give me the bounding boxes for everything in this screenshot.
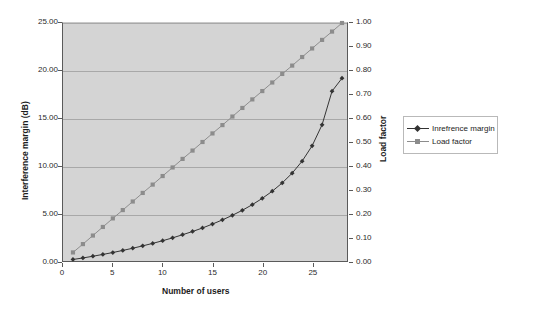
y-axis-right-tick-label: 0.50 bbox=[356, 137, 396, 146]
data-point-marker bbox=[130, 246, 135, 251]
data-series-layer bbox=[63, 23, 347, 261]
y-axis-right-tick-mark bbox=[349, 94, 353, 95]
y-axis-right-tick-label: 0.90 bbox=[356, 41, 396, 50]
x-axis-tick-mark bbox=[112, 263, 113, 267]
y-axis-left-tick-label: 5.00 bbox=[18, 209, 58, 218]
legend-label-inrefrence-margin: Inrefrence margin bbox=[429, 124, 495, 133]
y-axis-right-tick-label: 0.70 bbox=[356, 89, 396, 98]
legend-label-load-factor: Load factor bbox=[429, 137, 472, 146]
y-axis-left-tick-mark bbox=[58, 166, 62, 167]
data-point-marker bbox=[141, 191, 145, 195]
plot-area bbox=[62, 22, 348, 262]
data-point-marker bbox=[151, 183, 155, 187]
data-point-marker bbox=[250, 202, 255, 207]
data-point-marker bbox=[131, 199, 135, 203]
x-axis-tick-label: 25 bbox=[300, 268, 326, 277]
data-point-marker bbox=[190, 148, 194, 152]
data-point-marker bbox=[240, 208, 245, 213]
legend-item-inrefrence-margin[interactable]: Inrefrence margin bbox=[407, 122, 493, 135]
data-point-marker bbox=[310, 46, 314, 50]
y-axis-right-tick-label: 0.30 bbox=[356, 185, 396, 194]
data-point-marker bbox=[270, 80, 274, 84]
y-axis-left-title: Interference margin (dB) bbox=[20, 101, 30, 200]
data-point-marker bbox=[110, 250, 115, 255]
chart-legend: Inrefrence margin Load factor bbox=[403, 116, 498, 154]
x-axis-tick-mark bbox=[313, 263, 314, 267]
y-axis-left-tick-label: 25.00 bbox=[18, 17, 58, 26]
x-axis-tick-label: 10 bbox=[149, 268, 175, 277]
data-point-marker bbox=[340, 21, 344, 25]
data-point-marker bbox=[91, 254, 96, 259]
y-axis-left-tick-mark bbox=[58, 214, 62, 215]
y-axis-right-tick-label: 0.00 bbox=[356, 257, 396, 266]
x-axis-tick-label: 0 bbox=[49, 268, 75, 277]
series-2 bbox=[71, 21, 344, 255]
y-axis-right-tick-mark bbox=[349, 70, 353, 71]
x-axis-tick-label: 20 bbox=[250, 268, 276, 277]
data-point-marker bbox=[71, 257, 76, 262]
data-point-marker bbox=[330, 29, 334, 33]
data-point-marker bbox=[160, 238, 165, 243]
y-axis-right-tick-label: 0.60 bbox=[356, 113, 396, 122]
y-axis-left-tick-label: 0.00 bbox=[18, 257, 58, 266]
data-point-marker bbox=[240, 106, 244, 110]
y-axis-right-tick-label: 1.00 bbox=[356, 17, 396, 26]
y-axis-right-tick-mark bbox=[349, 190, 353, 191]
data-point-marker bbox=[170, 235, 175, 240]
y-axis-left-tick-mark bbox=[58, 22, 62, 23]
x-axis-tick-label: 5 bbox=[99, 268, 125, 277]
data-point-marker bbox=[230, 213, 235, 218]
data-point-marker bbox=[280, 72, 284, 76]
x-axis-tick-mark bbox=[213, 263, 214, 267]
y-axis-right-tick-label: 0.80 bbox=[356, 65, 396, 74]
data-point-marker bbox=[100, 252, 105, 257]
data-point-marker bbox=[220, 217, 225, 222]
y-axis-right-tick-mark bbox=[349, 118, 353, 119]
y-axis-right-tick-label: 0.40 bbox=[356, 161, 396, 170]
data-point-marker bbox=[91, 233, 95, 237]
data-point-marker bbox=[121, 208, 125, 212]
y-axis-right-tick-mark bbox=[349, 142, 353, 143]
data-point-marker bbox=[120, 248, 125, 253]
y-axis-right-title: Load factor bbox=[378, 116, 388, 162]
x-axis-tick-label: 15 bbox=[200, 268, 226, 277]
series-1 bbox=[71, 76, 345, 262]
data-point-marker bbox=[200, 226, 205, 231]
data-point-marker bbox=[171, 165, 175, 169]
y-axis-left-tick-mark bbox=[58, 118, 62, 119]
x-axis-tick-mark bbox=[62, 263, 63, 267]
data-point-marker bbox=[140, 243, 145, 248]
data-point-marker bbox=[260, 89, 264, 93]
data-point-marker bbox=[101, 225, 105, 229]
y-axis-right-tick-mark bbox=[349, 214, 353, 215]
data-point-marker bbox=[180, 157, 184, 161]
data-point-marker bbox=[200, 140, 204, 144]
y-axis-right-tick-mark bbox=[349, 166, 353, 167]
data-point-marker bbox=[111, 216, 115, 220]
data-point-marker bbox=[320, 38, 324, 42]
x-axis-title: Number of users bbox=[162, 286, 230, 296]
data-point-marker bbox=[210, 131, 214, 135]
data-point-marker bbox=[220, 123, 224, 127]
data-point-marker bbox=[161, 174, 165, 178]
legend-item-load-factor[interactable]: Load factor bbox=[407, 135, 493, 148]
y-axis-right-tick-mark bbox=[349, 262, 353, 263]
data-point-marker bbox=[250, 97, 254, 101]
y-axis-right-tick-label: 0.10 bbox=[356, 233, 396, 242]
data-point-marker bbox=[300, 55, 304, 59]
y-axis-right-tick-label: 0.20 bbox=[356, 209, 396, 218]
y-axis-left-tick-label: 20.00 bbox=[18, 65, 58, 74]
y-axis-right-tick-mark bbox=[349, 238, 353, 239]
data-point-marker bbox=[290, 64, 294, 68]
data-point-marker bbox=[180, 232, 185, 237]
y-axis-right-tick-mark bbox=[349, 22, 353, 23]
x-axis-tick-mark bbox=[162, 263, 163, 267]
data-point-marker bbox=[81, 242, 85, 246]
data-point-marker bbox=[210, 222, 215, 227]
square-marker-icon bbox=[407, 136, 429, 147]
data-point-marker bbox=[71, 250, 75, 254]
y-axis-left-tick-mark bbox=[58, 70, 62, 71]
data-point-marker bbox=[230, 114, 234, 118]
data-point-marker bbox=[190, 229, 195, 234]
series-line bbox=[73, 78, 342, 259]
